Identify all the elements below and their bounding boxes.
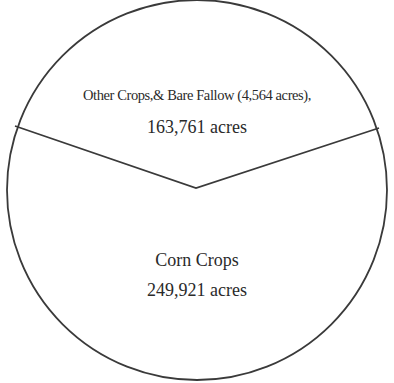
slice-value-corn-crops: 249,921 acres xyxy=(0,280,394,301)
pie-outline xyxy=(7,0,387,380)
slice-label-corn-crops: Corn Crops xyxy=(0,250,394,271)
slice-value-other-crops: 163,761 acres xyxy=(0,117,394,138)
pie-chart xyxy=(0,0,394,383)
slice-label-other-crops: Other Crops,& Bare Fallow (4,564 acres), xyxy=(0,87,394,104)
